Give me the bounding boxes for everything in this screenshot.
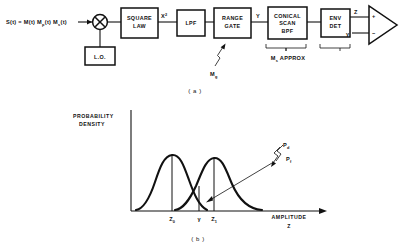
chart-xtick-z0: Z0 bbox=[169, 216, 175, 224]
amplifier-plus-input-label: + bbox=[372, 13, 376, 19]
figure-svg: S(t) = M(t) Mp(t) Ms(t) L.O. SQUARE LAW … bbox=[0, 0, 403, 246]
block-square-law-line2: LAW bbox=[133, 23, 147, 29]
panel-a-block-diagram: S(t) = M(t) Mp(t) Ms(t) L.O. SQUARE LAW … bbox=[6, 6, 397, 94]
figure-root: S(t) = M(t) Mp(t) Ms(t) L.O. SQUARE LAW … bbox=[0, 0, 403, 246]
range-gate-mg-pointer bbox=[215, 44, 226, 66]
block-lpf-label: LPF bbox=[185, 20, 197, 26]
mg-arrow-icon bbox=[221, 44, 226, 50]
panel-a-caption: ( a ) bbox=[188, 88, 202, 94]
input-signal-label: S(t) = M(t) Mp(t) Ms(t) bbox=[6, 19, 67, 27]
block-conical-scan-bpf-line1: CONICAL bbox=[274, 13, 301, 19]
chart-xtick-gamma: γ bbox=[197, 216, 201, 222]
block-square-law-line1: SQUARE bbox=[127, 15, 152, 21]
annotation-ms-approx-label: Ms APPROX bbox=[271, 55, 306, 63]
chart-annotation-pf bbox=[206, 145, 283, 203]
amplifier-triangle-icon bbox=[369, 6, 397, 44]
block-conical-scan-bpf-line2: SCAN bbox=[279, 20, 296, 26]
chart-ylabel-line1: PROBABILITY bbox=[73, 113, 114, 119]
block-env-det-line2: DET bbox=[330, 23, 342, 29]
block-local-oscillator-label: L.O. bbox=[94, 54, 106, 60]
pd-arrow-icon bbox=[271, 161, 276, 167]
amplifier-minus-input-label: − bbox=[372, 30, 376, 36]
pf-arrow-icon bbox=[206, 196, 213, 203]
block-env-det-line1: ENV bbox=[329, 15, 341, 21]
panel-b-probability-chart: PROBABILITY DENSITY Z0 γ Z1 Pd Pf bbox=[73, 110, 327, 242]
chart-ylabel-line2: DENSITY bbox=[79, 121, 105, 127]
chart-curve-pd bbox=[175, 158, 262, 210]
signal-label-z: Z bbox=[354, 9, 358, 15]
block-conical-scan-bpf-line3: BPF bbox=[282, 28, 294, 34]
chart-x-axis-arrow-icon bbox=[319, 208, 327, 214]
input-arrow-icon bbox=[87, 20, 92, 25]
chart-xlabel-sub: Z bbox=[287, 223, 291, 229]
signal-label-x-squared: X2 bbox=[161, 12, 168, 19]
block-range-gate-line2: GATE bbox=[225, 23, 241, 29]
chart-xlabel: AMPLITUDE bbox=[272, 214, 307, 220]
chart-xtick-z1: Z1 bbox=[211, 216, 217, 224]
mixer-cross-icon bbox=[93, 15, 108, 30]
signal-label-y: Y bbox=[256, 13, 260, 19]
chart-series-label-pd: Pd bbox=[283, 142, 290, 150]
chart-series-label-pf: Pf bbox=[286, 156, 292, 164]
annotation-mg-label: Mg bbox=[210, 71, 218, 79]
ms-approx-brace bbox=[266, 44, 350, 51]
panel-b-caption: ( b ) bbox=[191, 236, 205, 242]
signal-label-gamma: γ bbox=[346, 31, 350, 37]
block-range-gate-line1: RANGE bbox=[222, 15, 243, 21]
